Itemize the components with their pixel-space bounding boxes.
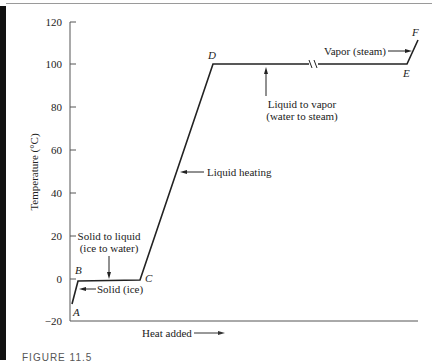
x-axis-arrowhead [218, 331, 225, 335]
annotation-liquid-heating: Liquid heating [207, 166, 272, 178]
annotation-vapor: Vapor (steam) [324, 45, 386, 58]
annotation-boiling-line1: Liquid to vapor [268, 98, 337, 110]
y-tick-label: 60 [51, 144, 63, 156]
y-tick-label: 40 [51, 187, 63, 199]
y-tick-label: −20 [45, 315, 63, 327]
melting-arrowhead [107, 272, 111, 279]
annotation-melting-line2: (ice to water) [80, 242, 139, 255]
point-label-d: D [207, 49, 216, 61]
y-tick-label: 120 [46, 16, 63, 28]
point-label-e: E [402, 67, 410, 79]
y-tick-label: 20 [51, 230, 63, 242]
y-tick-label: 80 [51, 101, 63, 113]
annotation-melting-line1: Solid to liquid [78, 230, 141, 242]
solid-arrowhead [79, 287, 86, 291]
annotation-boiling-line2: (water to steam) [266, 110, 338, 123]
figure-caption: FIGURE 11.5 [22, 352, 92, 363]
vapor-arrowhead [405, 49, 412, 53]
point-label-b: B [75, 264, 82, 276]
liquid-heating-arrowhead [180, 170, 187, 174]
y-tick-label: 0 [57, 273, 63, 285]
annotation-solid: Solid (ice) [97, 283, 143, 296]
y-ticks [70, 22, 76, 279]
point-label-f: F [411, 26, 419, 38]
point-label-a: A [72, 306, 80, 318]
point-label-c: C [145, 272, 153, 284]
y-tick-label: 100 [46, 58, 63, 70]
x-axis-label: Heat added [142, 327, 192, 339]
boiling-arrowhead [264, 67, 268, 74]
y-axis-label: Temperature (°C) [28, 133, 41, 211]
